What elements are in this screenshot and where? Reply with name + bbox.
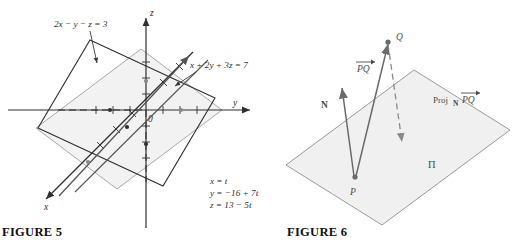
- figure-6-caption: FIGURE 6: [287, 225, 347, 240]
- projection-vector-label: PQ: [461, 95, 475, 105]
- figure-5-caption: FIGURE 5: [2, 225, 62, 240]
- vector-pq-label-group: PQ: [356, 60, 375, 74]
- figure-5-graphic: z y x 0: [0, 0, 259, 244]
- plane-gray-equation: x + 2y + 3z = 7: [189, 60, 248, 70]
- projection-prefix: Proj: [433, 95, 448, 105]
- z-axis-label: z: [149, 8, 154, 18]
- x-axis-label: x: [43, 202, 49, 212]
- param-equation-z: z = 13 − 5t: [209, 200, 252, 210]
- vector-pq-label: PQ: [356, 64, 370, 74]
- point-q: [385, 39, 390, 44]
- param-equation-x: x = t: [209, 176, 228, 186]
- point-p: [352, 174, 357, 179]
- y-axis-label: y: [232, 98, 238, 108]
- projection-subscript: N: [453, 99, 459, 108]
- plane-pi-label: Π: [428, 159, 436, 170]
- vector-n-label: N: [321, 100, 328, 110]
- plane-x-2y-3z: [36, 49, 222, 189]
- figure-5-panel: z y x 0: [0, 0, 259, 244]
- point-p-label: P: [349, 187, 356, 197]
- figure-6-graphic: Q P N PQ Proj N PQ Π: [259, 0, 517, 244]
- point-q-label: Q: [396, 32, 403, 42]
- plane-dark-equation: 2x − y − z = 3: [54, 19, 108, 29]
- plane-dark-leader: [90, 31, 97, 63]
- figure-6-panel: Q P N PQ Proj N PQ Π FIGURE 6: [259, 0, 517, 244]
- param-equation-y: y = −16 + 7t: [209, 188, 259, 198]
